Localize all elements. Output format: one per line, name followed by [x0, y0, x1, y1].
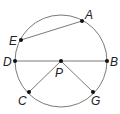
point-A: [80, 19, 84, 23]
point-B: [105, 59, 109, 63]
label-E: E: [9, 34, 18, 48]
label-B: B: [110, 55, 118, 69]
circle-diagram: AEDBPCG: [0, 0, 120, 114]
segment-chord-EA: [21, 21, 82, 40]
label-G: G: [91, 94, 100, 108]
point-D: [13, 59, 17, 63]
label-P: P: [55, 66, 63, 80]
segment-radius-PG: [61, 61, 93, 92]
point-C: [27, 90, 31, 94]
point-E: [19, 38, 23, 42]
label-C: C: [18, 94, 27, 108]
label-A: A: [84, 8, 93, 22]
label-D: D: [3, 55, 12, 69]
point-P: [59, 59, 63, 63]
